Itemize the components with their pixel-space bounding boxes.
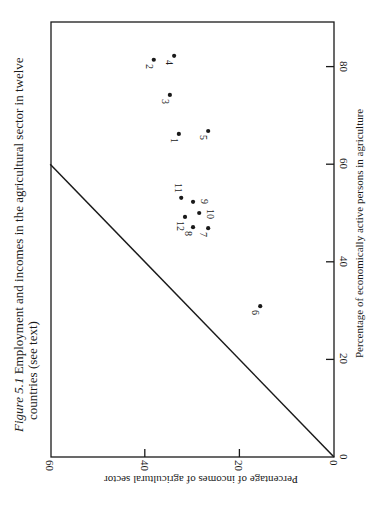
y-tick-label: 60 (338, 158, 349, 169)
data-point (168, 93, 172, 97)
y-tick-label: 0 (338, 454, 349, 460)
point-label: 8 (183, 231, 193, 236)
data-point (206, 226, 210, 230)
x-axis-label-text: Percentage of incomes of agricultural se… (104, 474, 298, 486)
plot-frame (51, 22, 334, 457)
figure-caption-line1: Figure 5.1 Employment and incomes in the… (12, 57, 25, 432)
point-label: 3 (160, 99, 170, 104)
data-point (179, 196, 183, 200)
y-tick-label: 20 (338, 353, 349, 364)
x-tick-label: 40 (139, 460, 150, 471)
data-point (152, 58, 156, 62)
x-tick-label: 20 (233, 460, 244, 471)
caption-text-cont: countries (see text) (25, 321, 40, 420)
x-axis-label: Percentage of incomes of agricultural se… (113, 474, 298, 485)
point-label: 7 (198, 232, 208, 237)
data-point (177, 132, 181, 136)
y-axis-label-text: Percentage of economically active person… (353, 109, 365, 358)
point-label: 10 (205, 209, 215, 219)
point-label: 6 (250, 310, 260, 315)
data-point (183, 215, 187, 219)
caption-text: Employment and incomes in the agricultur… (11, 57, 26, 377)
figure-caption-line2: countries (see text) (26, 321, 39, 420)
x-tick-label: 0 (328, 460, 339, 466)
point-label: 4 (164, 60, 174, 65)
data-point (258, 304, 262, 308)
point-label: 1 (169, 138, 179, 143)
figure-label: Figure 5.1 (11, 378, 26, 432)
point-label: 12 (175, 221, 185, 231)
data-point (191, 225, 195, 229)
data-point (172, 54, 176, 58)
y-tick-label: 80 (338, 61, 349, 72)
data-point (191, 200, 195, 204)
equality-line (50, 164, 334, 457)
point-label: 2 (144, 64, 154, 69)
x-tick-label: 60 (44, 460, 55, 471)
scatter-figure: Figure 5.1 Employment and incomes in the… (0, 0, 376, 514)
plot-area (0, 0, 376, 514)
point-label: 11 (173, 183, 183, 193)
point-label: 5 (198, 135, 208, 140)
data-points (152, 54, 263, 309)
y-axis-label: Percentage of economically active person… (354, 109, 365, 358)
data-point (197, 211, 201, 215)
axis-ticks (145, 67, 334, 457)
y-tick-label: 40 (338, 256, 349, 267)
point-label: 9 (199, 199, 209, 204)
data-point (206, 129, 210, 133)
